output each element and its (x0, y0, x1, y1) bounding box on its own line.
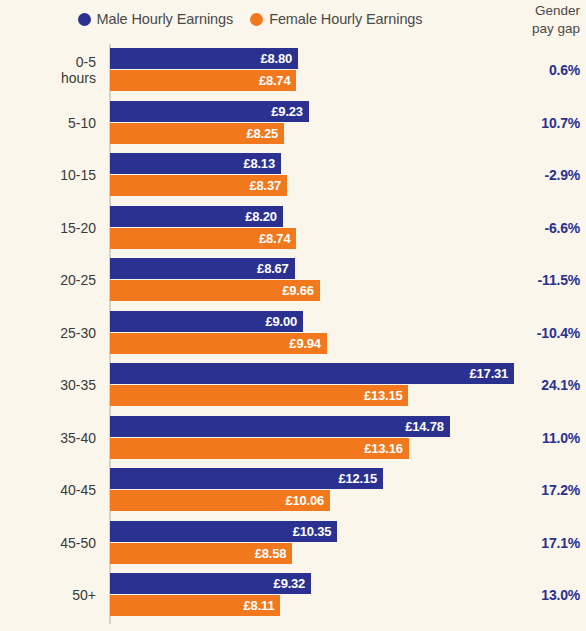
bar-value-label: £8.37 (249, 178, 287, 193)
chart-row: 35-40£14.78£13.1611.0% (0, 412, 586, 465)
legend-item-male[interactable]: Male Hourly Earnings (78, 11, 234, 27)
bar-value-label: £8.11 (244, 598, 281, 613)
bar-female[interactable]: £8.58 (110, 543, 292, 564)
chart-header: Male Hourly Earnings Female Hourly Earni… (0, 0, 586, 44)
legend-item-female[interactable]: Female Hourly Earnings (250, 11, 422, 27)
bar-male[interactable]: £8.67 (110, 258, 295, 279)
bar-female[interactable]: £9.94 (110, 333, 327, 354)
bar-value-label: £10.06 (285, 493, 330, 508)
bar-value-label: £8.74 (259, 73, 297, 88)
chart-rows: 0-5 hours£8.80£8.740.6%5-10£9.23£8.2510.… (0, 44, 586, 622)
category-label: 30-35 (0, 359, 96, 412)
category-label: 50+ (0, 569, 96, 622)
bar-value-label: £12.15 (338, 471, 383, 486)
chart-row: 5-10£9.23£8.2510.7% (0, 97, 586, 150)
bar-male[interactable]: £17.31 (110, 363, 514, 384)
bar-value-label: £9.00 (265, 314, 303, 329)
chart-row: 25-30£9.00£9.94-10.4% (0, 307, 586, 360)
bar-female[interactable]: £13.15 (110, 385, 408, 406)
bar-female[interactable]: £9.66 (110, 280, 320, 301)
bar-female[interactable]: £8.74 (110, 228, 296, 249)
gender-pay-gap-value: -6.6% (488, 202, 580, 255)
bar-value-label: £9.32 (274, 576, 312, 591)
bar-value-label: £10.35 (293, 524, 338, 539)
bar-female[interactable]: £8.37 (110, 175, 287, 196)
bar-female[interactable]: £8.74 (110, 70, 296, 91)
bar-female[interactable]: £10.06 (110, 490, 330, 511)
circle-dot-icon (250, 13, 263, 26)
gender-pay-gap-value: 17.2% (488, 464, 580, 517)
bar-value-label: £8.20 (245, 209, 283, 224)
bar-male[interactable]: £9.32 (110, 573, 311, 594)
gap-column-header: Gender pay gap (488, 2, 580, 38)
gender-pay-gap-value: 11.0% (488, 412, 580, 465)
bar-male[interactable]: £8.20 (110, 206, 283, 227)
bar-female[interactable]: £13.16 (110, 438, 409, 459)
gender-pay-gap-value: -10.4% (488, 307, 580, 360)
chart-row: 15-20£8.20£8.74-6.6% (0, 202, 586, 255)
circle-dot-icon (78, 13, 91, 26)
chart-row: 40-45£12.15£10.0617.2% (0, 464, 586, 517)
category-label: 0-5 hours (0, 44, 96, 97)
bar-male[interactable]: £8.13 (110, 153, 281, 174)
gender-pay-gap-chart: Male Hourly Earnings Female Hourly Earni… (0, 0, 586, 631)
bar-male[interactable]: £9.00 (110, 311, 303, 332)
category-label: 40-45 (0, 464, 96, 517)
chart-row: 0-5 hours£8.80£8.740.6% (0, 44, 586, 97)
bar-male[interactable]: £12.15 (110, 468, 383, 489)
bar-female[interactable]: £8.25 (110, 123, 284, 144)
category-label: 35-40 (0, 412, 96, 465)
bar-value-label: £9.66 (282, 283, 320, 298)
category-label: 5-10 (0, 97, 96, 150)
bar-value-label: £14.78 (405, 419, 450, 434)
gender-pay-gap-value: 13.0% (488, 569, 580, 622)
bar-value-label: £8.74 (259, 231, 297, 246)
bar-value-label: £9.94 (289, 336, 327, 351)
bar-value-label: £8.25 (246, 126, 284, 141)
gender-pay-gap-value: 17.1% (488, 517, 580, 570)
gender-pay-gap-value: 10.7% (488, 97, 580, 150)
bar-value-label: £9.23 (271, 104, 309, 119)
bar-female[interactable]: £8.11 (110, 595, 280, 616)
gap-column-header-line1: Gender (488, 2, 580, 20)
bar-value-label: £8.80 (260, 51, 298, 66)
legend-label-male: Male Hourly Earnings (97, 11, 234, 27)
chart-row: 10-15£8.13£8.37-2.9% (0, 149, 586, 202)
legend-label-female: Female Hourly Earnings (269, 11, 422, 27)
bar-male[interactable]: £10.35 (110, 521, 337, 542)
bar-value-label: £8.13 (243, 156, 281, 171)
bar-value-label: £13.15 (364, 388, 409, 403)
chart-row: 50+£9.32£8.1113.0% (0, 569, 586, 622)
chart-row: 20-25£8.67£9.66-11.5% (0, 254, 586, 307)
gender-pay-gap-value: -11.5% (488, 254, 580, 307)
bar-value-label: £8.67 (257, 261, 295, 276)
category-label: 45-50 (0, 517, 96, 570)
bar-male[interactable]: £8.80 (110, 48, 298, 69)
gender-pay-gap-value: 24.1% (488, 359, 580, 412)
chart-row: 30-35£17.31£13.1524.1% (0, 359, 586, 412)
bar-male[interactable]: £14.78 (110, 416, 450, 437)
category-label: 15-20 (0, 202, 96, 255)
category-label: 20-25 (0, 254, 96, 307)
category-label: 10-15 (0, 149, 96, 202)
chart-legend: Male Hourly Earnings Female Hourly Earni… (0, 11, 500, 27)
bar-value-label: £8.58 (255, 546, 293, 561)
gender-pay-gap-value: 0.6% (488, 44, 580, 97)
gap-column-header-line2: pay gap (488, 20, 580, 38)
gender-pay-gap-value: -2.9% (488, 149, 580, 202)
bar-value-label: £13.16 (364, 441, 409, 456)
chart-row: 45-50£10.35£8.5817.1% (0, 517, 586, 570)
category-label: 25-30 (0, 307, 96, 360)
bar-male[interactable]: £9.23 (110, 101, 309, 122)
